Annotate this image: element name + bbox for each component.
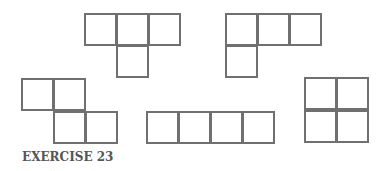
square-cell (289, 13, 322, 46)
square-cell (304, 110, 337, 143)
square-cell (146, 111, 179, 144)
square-cell (53, 78, 86, 111)
square-cell (336, 110, 369, 143)
square-cell (85, 111, 118, 144)
square-cell (257, 13, 290, 46)
square-cell (210, 111, 243, 144)
square-cell (84, 13, 117, 46)
exercise-caption: EXERCISE 23 (22, 150, 113, 164)
square-cell (242, 111, 275, 144)
square-cell (116, 13, 149, 46)
square-cell (53, 111, 86, 144)
square-cell (304, 77, 337, 110)
square-cell (148, 13, 181, 46)
square-cell (225, 45, 258, 78)
square-cell (336, 77, 369, 110)
square-cell (116, 45, 149, 78)
square-cell (225, 13, 258, 46)
square-cell (21, 78, 54, 111)
square-cell (178, 111, 211, 144)
